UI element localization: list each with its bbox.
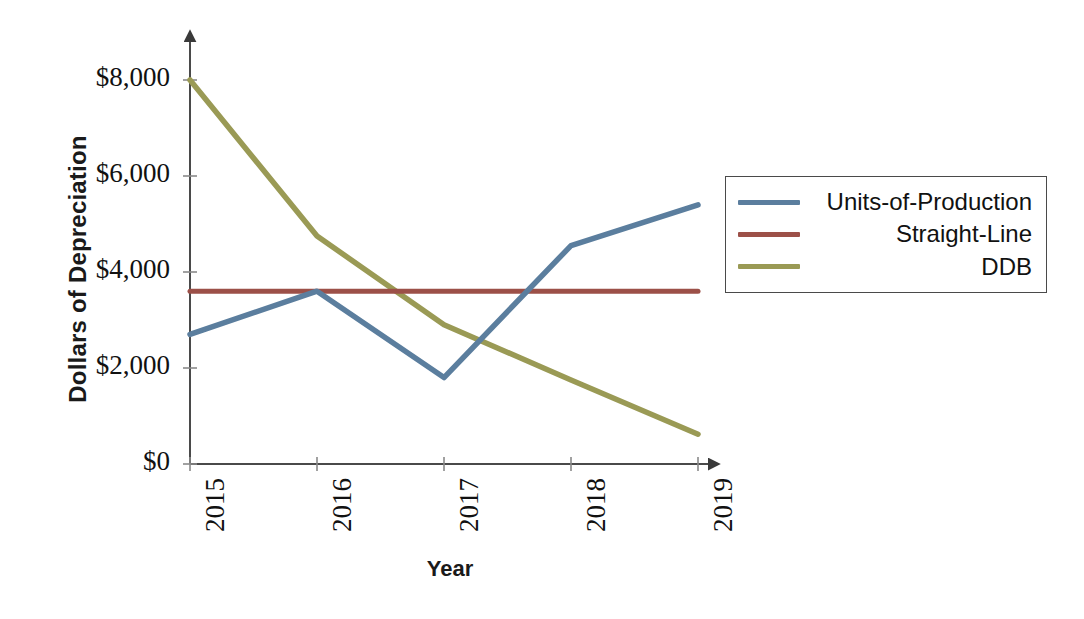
legend-swatch-units-of-production — [738, 200, 800, 205]
legend-item-units-of-production[interactable]: Units-of-Production — [738, 186, 1036, 218]
chart-page: Dollars of Depreciation $8,000 $6,000 $4… — [0, 0, 1084, 619]
series-line-ddb — [190, 80, 698, 434]
legend-label-units-of-production: Units-of-Production — [810, 188, 1036, 216]
legend-label-ddb: DDB — [810, 253, 1036, 281]
legend-item-straight-line[interactable]: Straight-Line — [738, 218, 1036, 250]
legend-label-straight-line: Straight-Line — [810, 220, 1036, 248]
legend-item-ddb[interactable]: DDB — [738, 251, 1036, 283]
plot-area — [0, 0, 1084, 619]
x-axis-title: Year — [330, 556, 570, 582]
legend-swatch-straight-line — [738, 232, 800, 237]
legend-swatch-ddb — [738, 264, 800, 269]
chart-legend: Units-of-Production Straight-Line DDB — [725, 176, 1047, 293]
